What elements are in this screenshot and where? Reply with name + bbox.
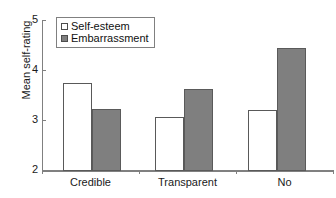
- chart-legend: Self-esteem Embarrassment: [56, 17, 155, 48]
- bar-self-esteem-transparent: [155, 117, 184, 171]
- x-category-label-transparent: Transparent: [139, 176, 236, 188]
- legend-item-self-esteem: Self-esteem: [61, 20, 149, 32]
- legend-label-embarrassment: Embarrassment: [71, 33, 149, 44]
- bar-embarrassment-credible: [92, 109, 121, 171]
- bar-self-esteem-credible: [63, 83, 92, 171]
- y-tick-mark-3: [42, 120, 46, 121]
- legend-swatch-gray-icon: [61, 35, 68, 42]
- legend-label-self-esteem: Self-esteem: [71, 21, 130, 32]
- x-category-label-credible: Credible: [42, 176, 139, 188]
- bar-chart: Mean self-rating 5 4 3 2 Credible Transp…: [0, 0, 336, 198]
- legend-item-embarrassment: Embarrassment: [61, 32, 149, 44]
- y-tick-label-5: 5: [16, 14, 38, 25]
- y-tick-label-4: 4: [16, 64, 38, 75]
- x-tick-mark-2: [236, 170, 237, 174]
- y-tick-mark-4: [42, 70, 46, 71]
- y-tick-label-3: 3: [16, 114, 38, 125]
- x-tick-mark-3: [333, 170, 334, 174]
- y-tick-label-2: 2: [16, 164, 38, 175]
- y-tick-mark-5: [42, 20, 46, 21]
- bar-self-esteem-no: [248, 110, 277, 171]
- bar-embarrassment-no: [277, 48, 306, 171]
- x-category-label-no: No: [236, 176, 333, 188]
- legend-swatch-white-icon: [61, 23, 68, 30]
- bar-embarrassment-transparent: [184, 89, 213, 171]
- x-tick-mark-1: [139, 170, 140, 174]
- x-tick-mark-0: [42, 170, 43, 174]
- y-axis-line: [42, 20, 43, 171]
